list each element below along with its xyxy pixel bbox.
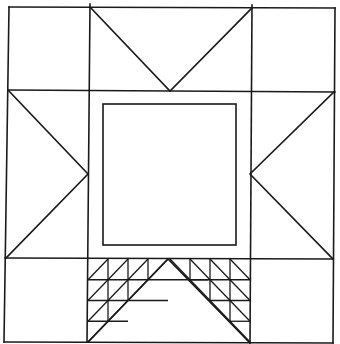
half-square-triangle-diagonal xyxy=(230,280,250,301)
half-square-triangle-diagonal xyxy=(128,259,148,280)
half-square-triangle-diagonal xyxy=(148,259,168,280)
half-square-triangle-diagonal xyxy=(230,321,250,342)
outer-edge-top xyxy=(9,7,335,8)
half-square-triangle-diagonal xyxy=(108,301,128,322)
block-outline xyxy=(4,7,335,343)
star-point-top xyxy=(90,7,252,91)
half-square-triangle-diagonal xyxy=(108,280,128,301)
bottom-right-triangle-grid xyxy=(170,259,250,342)
outer-edge-left xyxy=(4,7,9,342)
half-square-triangle-diagonal xyxy=(88,301,108,322)
center-square xyxy=(103,104,236,245)
quilt-block-diagram xyxy=(0,0,340,344)
half-square-triangle-diagonal xyxy=(108,259,128,280)
star-point-right xyxy=(250,92,334,259)
star-point-left xyxy=(6,90,88,258)
half-square-triangle-diagonal xyxy=(210,280,230,301)
half-square-triangle-diagonal xyxy=(210,259,230,280)
half-square-triangle-diagonal xyxy=(170,259,190,280)
half-square-triangle-diagonal xyxy=(88,259,108,280)
half-square-triangle-diagonal xyxy=(230,259,250,280)
center-square-frame xyxy=(103,104,236,245)
half-square-triangle-diagonal xyxy=(230,301,250,322)
star-points xyxy=(6,7,334,343)
half-square-triangle-diagonal xyxy=(128,280,148,301)
grid-dividers xyxy=(5,4,335,343)
half-square-triangle-diagonal xyxy=(210,301,230,322)
outer-edge-bottom xyxy=(4,342,333,343)
outer-edge-right xyxy=(333,8,335,343)
half-square-triangle-diagonal xyxy=(88,321,108,342)
half-square-triangle-diagonal xyxy=(88,280,108,301)
divider-horizontal-bottom xyxy=(5,258,333,259)
half-square-triangle-diagonal xyxy=(190,259,210,280)
half-square-triangle-diagonal xyxy=(190,280,210,301)
